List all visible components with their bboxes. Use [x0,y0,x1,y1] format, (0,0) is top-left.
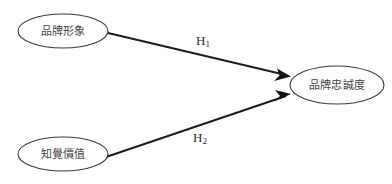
hypothesis-h2-base: H [193,130,202,145]
node-brand-loyalty[interactable]: 品牌忠誠度 [290,66,384,104]
node-brand-loyalty-label: 品牌忠誠度 [309,78,365,92]
hypothesis-label-h2: H2 [193,130,207,146]
hypothesis-h1-subscript: 1 [205,39,210,49]
research-model-diagram: 品牌形象 知覺價值 品牌忠誠度 H1 H2 [0,0,392,184]
node-perceived-value-label: 知覺價值 [41,147,86,161]
hypothesis-h1-base: H [196,33,205,48]
node-brand-image-label: 品牌形象 [41,24,86,38]
hypothesis-label-h1: H1 [196,33,210,49]
path-h1-arrowhead-icon [274,69,291,82]
path-h2-line [106,96,286,157]
diagram-svg-canvas: 品牌形象 知覺價值 品牌忠誠度 H1 H2 [0,0,392,184]
node-brand-image[interactable]: 品牌形象 [18,14,108,48]
path-h2-group [106,90,291,157]
node-perceived-value[interactable]: 知覺價值 [18,137,108,171]
path-h2-arrowhead-icon [274,90,291,102]
hypothesis-h2-subscript: 2 [202,136,207,146]
